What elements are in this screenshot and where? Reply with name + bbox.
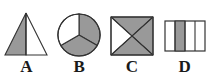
shapes-row — [0, 0, 211, 58]
shape-cell-d — [159, 0, 211, 58]
shape-cell-b — [53, 0, 105, 58]
shape-cell-a — [0, 0, 52, 58]
shape-label-c: C — [106, 56, 158, 77]
shape-label-a: A — [0, 56, 52, 77]
labels-row: A B C D — [0, 56, 211, 81]
shape-label-b: B — [53, 56, 105, 77]
geometry-figure: A B C D — [0, 0, 211, 81]
shape-cell-c — [106, 0, 158, 58]
circle-sectors-shape-icon — [56, 10, 102, 58]
rectangle-strips-shape-icon — [161, 10, 209, 58]
rectangle-diagonals-shape-icon — [108, 10, 156, 58]
shape-label-d: D — [159, 56, 211, 77]
triangle-shape-icon — [1, 10, 51, 58]
